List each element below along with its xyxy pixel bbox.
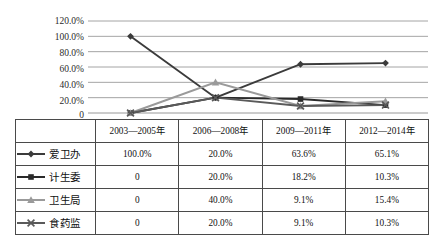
legend-swatch [16,148,46,160]
legend-cell-2: 计生委 [16,166,96,189]
table-cell-r3-c2: 40.0% [179,189,262,212]
data-point-marker-diamond [382,60,389,67]
table-cell-r3-c4: 15.4% [345,189,428,212]
legend-marker-diamond-icon [16,148,46,160]
legend-cell-3: 卫生局 [16,189,96,212]
legend-cell-4: 食药监 [16,212,96,235]
table-cell-r1-c1: 100.0% [96,143,179,166]
data-point-marker-diamond [28,151,35,158]
data-point-marker-square [28,174,34,180]
table-body: 爱卫办100.0%20.0%63.6%65.1%计生委020.0%18.2%10… [16,143,429,235]
table-header-row: 2003—2005年 2006—2008年 2009—2011年 2012—20… [16,120,429,143]
table-cell-r2-c2: 20.0% [179,166,262,189]
table-cell-r2-c1: 0 [96,166,179,189]
chart-plot-svg [0,0,448,122]
table-row: 食药监020.0%9.1%10.3% [16,212,429,235]
table-cell-r4-c3: 9.1% [262,212,345,235]
data-table-wrapper: 2003—2005年 2006—2008年 2009—2011年 2012—20… [15,119,429,235]
legend-series-name: 食药监 [49,218,81,229]
legend-marker-square-icon [16,171,46,183]
table-cell-r4-c4: 10.3% [345,212,428,235]
table-cell-r1-c2: 20.0% [179,143,262,166]
table-cell-r1-c3: 63.6% [262,143,345,166]
data-point-marker-square [298,96,304,102]
table-cell-r4-c2: 20.0% [179,212,262,235]
table-corner-cell [16,120,96,143]
legend-swatch [16,194,46,206]
table-cell-r4-c1: 0 [96,212,179,235]
chart-with-data-table: 120.0% 100.0% 80.0% 60.0% 40.0% 20.0% 0 … [0,0,448,240]
table-row: 爱卫办100.0%20.0%63.6%65.1% [16,143,429,166]
table-cell-r1-c4: 65.1% [345,143,428,166]
table-cell-r3-c1: 0 [96,189,179,212]
column-header-period-2: 2006—2008年 [179,120,262,143]
legend-swatch [16,217,46,229]
table-row: 计生委020.0%18.2%10.3% [16,166,429,189]
legend-marker-cross-icon [16,217,46,229]
legend-series-name: 计生委 [49,172,81,183]
line-chart: 120.0% 100.0% 80.0% 60.0% 40.0% 20.0% 0 [0,0,448,122]
legend-series-name: 爱卫办 [49,149,81,160]
series-lines [131,36,386,113]
table-row: 卫生局040.0%9.1%15.4% [16,189,429,212]
table-cell-r3-c3: 9.1% [262,189,345,212]
column-header-period-3: 2009—2011年 [262,120,345,143]
column-header-period-1: 2003—2005年 [96,120,179,143]
legend-swatch [16,171,46,183]
legend-series-name: 卫生局 [49,195,81,206]
column-header-period-4: 2012—2014年 [345,120,428,143]
legend-cell-1: 爱卫办 [16,143,96,166]
legend-marker-triangle-icon [16,194,46,206]
table-cell-r2-c3: 18.2% [262,166,345,189]
table-cell-r2-c4: 10.3% [345,166,428,189]
data-table: 2003—2005年 2006—2008年 2009—2011年 2012—20… [15,119,429,235]
